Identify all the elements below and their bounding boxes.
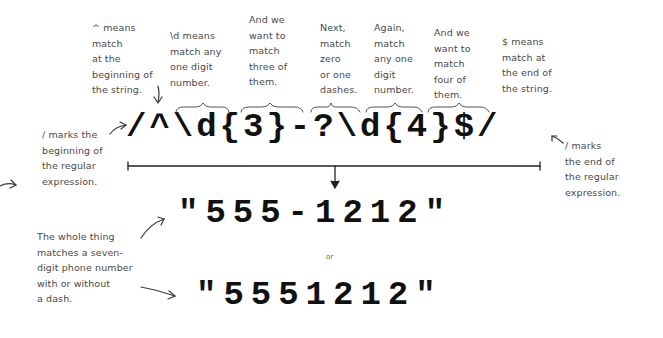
curved-arrow-icon [110,122,126,134]
curved-arrow-icon [141,217,164,238]
arrow-down-icon [154,86,162,103]
curved-arrow-icon [552,136,563,143]
bracket-line-icon [128,162,540,188]
curved-arrow-icon [0,180,16,188]
curved-arrow-icon [141,287,175,299]
brace-icon [176,103,489,112]
